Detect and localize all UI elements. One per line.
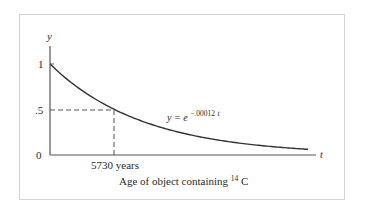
- x-axis-title-suffix: C: [241, 175, 248, 187]
- formula-exponent-variable: t: [217, 109, 220, 118]
- formula-label: y = e −.00012 t: [166, 107, 220, 123]
- formula-base: y = e: [166, 112, 188, 123]
- x-axis-title-text: Age of object containing: [119, 175, 231, 187]
- formula-exponent: −.00012: [190, 109, 215, 118]
- x-axis-title-superscript: 14: [231, 174, 239, 183]
- decay-chart: y t 1 .5 0 y = e −.00012 t 5730 years Ag…: [0, 0, 365, 215]
- y-axis-label: y: [46, 30, 52, 42]
- ytick-label-0: 0: [36, 149, 42, 161]
- x-axis-variable-label: t: [320, 149, 323, 160]
- decay-curve: [50, 64, 308, 149]
- xtick-label-5730: 5730 years: [91, 159, 139, 171]
- ytick-label-1: 1: [38, 58, 44, 70]
- x-axis-title: Age of object containing 14 C: [119, 171, 248, 187]
- ytick-label-half: .5: [35, 104, 44, 116]
